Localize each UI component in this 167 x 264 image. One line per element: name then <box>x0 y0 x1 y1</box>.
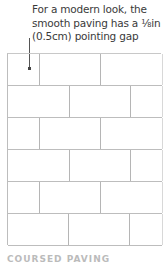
edge <box>162 86 163 117</box>
joint <box>100 118 101 149</box>
joint <box>130 86 131 117</box>
joint <box>39 118 40 149</box>
joint <box>39 54 40 85</box>
edge <box>162 150 163 181</box>
edge <box>162 118 163 149</box>
caption-line-3: (0.5cm) pointing gap <box>32 30 166 44</box>
joint <box>129 214 130 245</box>
edge <box>162 54 163 85</box>
paving-row-2 <box>8 86 162 118</box>
joint <box>69 86 70 117</box>
edge <box>162 182 163 213</box>
joint <box>100 182 101 213</box>
annotation-caption: For a modern look, the smooth paving has… <box>32 3 166 44</box>
caption-line-1: For a modern look, the <box>32 3 166 17</box>
joint <box>39 182 40 213</box>
joint <box>69 150 70 181</box>
paving-row-5 <box>8 182 162 214</box>
edge <box>162 214 163 245</box>
paving-row-4 <box>8 150 162 182</box>
section-label: COURSED PAVING <box>7 254 110 264</box>
joint <box>68 214 69 245</box>
joint <box>100 54 101 85</box>
paving-row-1 <box>8 54 162 86</box>
joint <box>130 150 131 181</box>
paving-grid <box>7 53 161 245</box>
paving-row-3 <box>8 118 162 150</box>
paving-row-6 <box>8 214 162 246</box>
caption-line-2: smooth paving has a ⅛in <box>32 17 166 31</box>
